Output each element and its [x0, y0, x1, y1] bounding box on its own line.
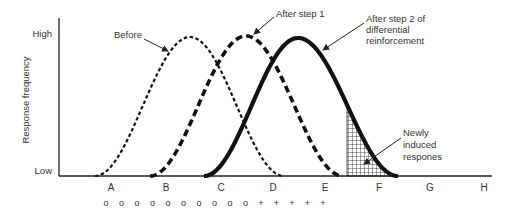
after-step-2-label: differential [366, 24, 410, 35]
circle-symbol: o [181, 198, 186, 208]
plus-symbol: + [289, 198, 294, 208]
y-axis-high-label: High [32, 28, 52, 39]
circle-symbol: o [227, 198, 232, 208]
after-step-1-label: After step 1 [276, 8, 325, 19]
y-axis-low-label: Low [35, 165, 53, 176]
x-tick-label: G [426, 182, 434, 193]
before-label: Before [114, 29, 142, 40]
circle-symbol: o [119, 198, 124, 208]
newly-induced-label: induced [403, 139, 436, 150]
x-tick-label: H [480, 182, 487, 193]
plus-symbol: + [274, 198, 279, 208]
circle-symbol: o [134, 198, 139, 208]
plus-symbol: + [305, 198, 310, 208]
newly-induced-responses-region [347, 105, 398, 176]
curve-before [95, 37, 284, 176]
arrow-icon [323, 23, 364, 50]
plus-symbol: + [320, 198, 325, 208]
reinforcement-diagram: High Low Response frequency ABCDEFGH ooo… [0, 0, 507, 213]
newly-induced-label: respones [403, 151, 442, 162]
curve-annotations: BeforeAfter step 1After step 2 ofdiffere… [114, 8, 442, 164]
circle-symbol: o [150, 198, 155, 208]
plus-symbol: + [258, 198, 263, 208]
circle-symbol: o [165, 198, 170, 208]
hatched-area [347, 105, 398, 176]
after-step-2-label: reinforcement [366, 35, 424, 46]
circle-symbol: o [196, 198, 201, 208]
x-tick-label: A [108, 182, 115, 193]
y-axis-title: Response frequency [20, 56, 31, 143]
x-tick-label: C [217, 182, 224, 193]
arrow-icon [254, 17, 274, 34]
arrow-icon [144, 39, 168, 51]
x-tick-label: D [269, 182, 276, 193]
newly-induced-label: Newly [403, 127, 429, 138]
x-axis-tick-labels: ABCDEFGH [108, 182, 488, 193]
after-step-2-label: After step 2 of [366, 13, 426, 24]
circle-symbol: o [103, 198, 108, 208]
curve-after-step-1 [150, 36, 343, 176]
circle-symbol: o [212, 198, 217, 208]
x-tick-label: E [322, 182, 329, 193]
circle-symbol: o [243, 198, 248, 208]
stimulus-symbol-row: oooooooooo+++++ [103, 198, 325, 208]
x-tick-label: F [376, 182, 382, 193]
x-tick-label: B [163, 182, 170, 193]
diagram-canvas: High Low Response frequency ABCDEFGH ooo… [0, 0, 507, 213]
